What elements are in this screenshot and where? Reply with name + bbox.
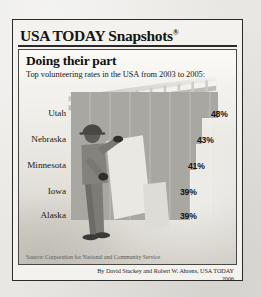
value-labels: 48% 43% 41% 39% 39%	[19, 92, 236, 224]
value-utah: 48%	[211, 109, 228, 119]
byline-year: 2006	[18, 275, 234, 283]
masthead-divider	[18, 45, 237, 47]
value-minnesota: 41%	[188, 161, 205, 171]
masthead-brand-text: USA TODAY Snapshots	[20, 27, 173, 44]
page-subtitle: Top volunteering rates in the USA from 2…	[26, 69, 236, 80]
value-iowa: 39%	[180, 187, 197, 197]
source-note: Source: Corporation for National and Com…	[26, 254, 160, 260]
snapshot-frame: USA TODAY Snapshots®	[12, 19, 243, 281]
masthead-title: USA TODAY Snapshots®	[20, 24, 179, 44]
scanned-page: USA TODAY Snapshots®	[0, 0, 261, 297]
byline: By David Stuckey and Robert W. Ahrens, U…	[18, 267, 237, 283]
chart-panel: Utah Nebraska Minnesota Iowa Alaska 48% …	[18, 49, 237, 265]
byline-credit: By David Stuckey and Robert W. Ahrens, U…	[97, 267, 234, 274]
value-alaska: 39%	[180, 211, 197, 221]
heading-block: Doing their part Top volunteering rates …	[19, 50, 236, 83]
value-nebraska: 43%	[197, 135, 214, 145]
masthead: USA TODAY Snapshots®	[18, 24, 237, 44]
registered-trademark-icon: ®	[173, 28, 179, 37]
page-title: Doing their part	[26, 53, 236, 68]
